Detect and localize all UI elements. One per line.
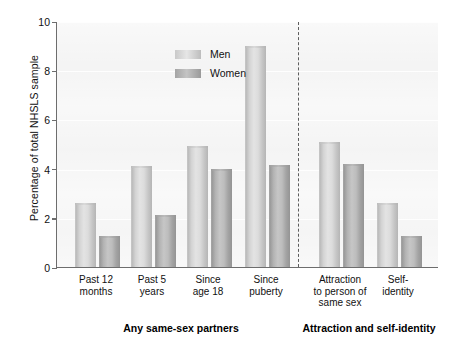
y-axis-tick: [52, 268, 57, 269]
bar-cap: [319, 142, 340, 144]
bar-cap: [155, 215, 176, 217]
bar-chart-figure: Percentage of total NHSLS sample 0246810…: [0, 0, 450, 344]
bar-men-self-identity: [377, 203, 398, 267]
legend-label-men: Men: [210, 48, 230, 60]
y-tick-label: 6: [2, 114, 50, 126]
legend-item-women: Women: [175, 67, 246, 79]
bar-men-since-age-18: [187, 146, 208, 267]
bar-cap: [343, 164, 364, 166]
x-axis-label-line: identity: [353, 286, 443, 298]
y-tick-label: 0: [2, 262, 50, 274]
bar-men-past-12-months: [75, 203, 96, 267]
bar-cap: [99, 236, 120, 238]
bar-men-past-5-years: [131, 166, 152, 267]
bar-women-attraction-to-person-of-same-sex: [343, 164, 364, 267]
plot-area: Men Women: [56, 22, 438, 268]
bar-women-since-age-18: [211, 169, 232, 267]
group-divider-dashed-line: [298, 22, 299, 267]
x-axis-label-line: Self-: [353, 274, 443, 286]
y-tick-label: 8: [2, 65, 50, 77]
x-axis-label-self-identity: Self-identity: [353, 274, 443, 297]
legend-swatch-women-icon: [175, 69, 201, 78]
bar-cap: [187, 146, 208, 148]
bar-cap: [401, 236, 422, 238]
group-label-attraction-and-self-identity: Attraction and self-identity: [279, 322, 450, 334]
legend: Men Women: [175, 48, 246, 86]
legend-item-men: Men: [175, 48, 246, 60]
gridline: [57, 22, 438, 23]
bar-cap: [245, 46, 266, 48]
bar-women-past-5-years: [155, 215, 176, 267]
x-axis-label-line: same sex: [295, 297, 385, 309]
legend-swatch-men-icon: [175, 50, 201, 59]
bar-cap: [211, 169, 232, 171]
bar-cap: [131, 166, 152, 168]
bar-women-past-12-months: [99, 236, 120, 267]
bar-cap: [75, 203, 96, 205]
bar-cap: [269, 165, 290, 167]
bar-women-since-puberty: [269, 165, 290, 267]
group-label-any-same-sex-partners: Any same-sex partners: [91, 322, 271, 334]
y-tick-label: 10: [2, 16, 50, 28]
bar-women-self-identity: [401, 236, 422, 267]
bar-men-since-puberty: [245, 46, 266, 267]
bar-cap: [377, 203, 398, 205]
bar-men-attraction-to-person-of-same-sex: [319, 142, 340, 267]
y-tick-label: 2: [2, 213, 50, 225]
y-axis-tick-labels: 0246810: [0, 22, 50, 268]
legend-label-women: Women: [210, 67, 246, 79]
y-tick-label: 4: [2, 164, 50, 176]
